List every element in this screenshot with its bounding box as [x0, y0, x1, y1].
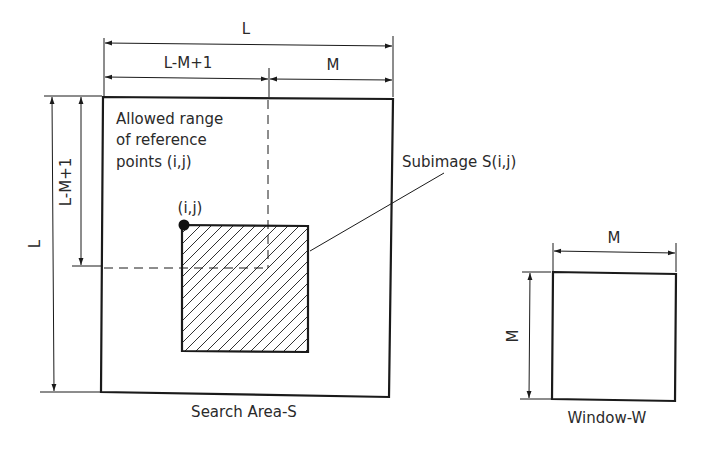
left-dimensions: L L-M+1 [26, 96, 102, 392]
hatch-line [151, 222, 281, 352]
dimension-arrow-L-left [52, 97, 54, 391]
hatch-line [239, 222, 369, 352]
window-group: M M Window-W [504, 229, 676, 427]
hatch-line [206, 222, 336, 352]
subimage-label: Subimage S(i,j) [402, 153, 516, 171]
hatch-pattern [52, 222, 501, 352]
hatch-line [140, 222, 270, 352]
hatch-line [305, 222, 435, 352]
hatch-line [107, 222, 237, 352]
hatch-line [250, 222, 380, 352]
hatch-line [96, 222, 226, 352]
dimension-label-LM1-left: L-M+1 [57, 158, 75, 207]
subimage-leader-line [310, 173, 444, 251]
dimension-label-LM1-top: L-M+1 [164, 54, 213, 72]
dimension-arrow-M-window-left [529, 273, 530, 398]
top-dimensions: L L-M+1 M [104, 20, 393, 97]
hatch-line [63, 222, 193, 352]
dimension-arrow-L-top [105, 43, 392, 46]
hatch-line [338, 222, 468, 352]
search-area-caption: Search Area-S [191, 403, 297, 421]
dimension-label-L-top: L [242, 20, 251, 38]
hatch-line [283, 222, 413, 352]
dimension-label-M-top: M [327, 56, 340, 74]
hatch-line [184, 222, 314, 352]
hatch-line [360, 222, 490, 352]
hatch-line [74, 222, 204, 352]
window-box [552, 272, 676, 401]
dimension-label-M-window-left: M [504, 330, 522, 343]
hatch-line [129, 222, 259, 352]
window-caption: Window-W [568, 409, 647, 427]
hatch-line [294, 222, 424, 352]
dimension-arrow-M-window-top [554, 251, 675, 253]
allowed-range-label: Allowed range of reference points (i,j) [116, 110, 228, 171]
hatch-line [272, 222, 402, 352]
reference-point-marker [179, 220, 190, 231]
subimage-region [52, 222, 501, 352]
hatch-line [85, 222, 215, 352]
dimension-arrow-LM1-top [105, 77, 268, 79]
hatch-line [228, 222, 358, 352]
subimage-box [182, 225, 308, 352]
dimension-label-L-left: L [26, 239, 44, 248]
dimension-label-M-window-top: M [608, 229, 621, 247]
reference-point-label: (i,j) [178, 199, 203, 217]
hatch-line [52, 222, 182, 352]
allowed-range-line-3: points (i,j) [116, 153, 192, 171]
hatch-line [349, 222, 479, 352]
search-window-diagram: L L-M+1 M L L-M+1 Allowed range of refer… [0, 0, 709, 451]
hatch-line [316, 222, 446, 352]
allowed-range-line-2: of reference [116, 131, 207, 149]
dimension-arrow-M-top [270, 79, 392, 80]
hatch-line [173, 222, 303, 352]
hatch-line [195, 222, 325, 352]
hatch-line [217, 222, 347, 352]
allowed-range-line-1: Allowed range [116, 110, 223, 128]
